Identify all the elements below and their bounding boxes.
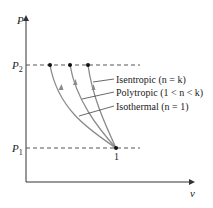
p2-label: P2 <box>11 59 23 74</box>
isentropic-leader <box>93 79 114 82</box>
isothermal-leader <box>79 106 114 116</box>
pv-diagram: P v P2 P1 1 Isentropic (n = k) Polytropi… <box>0 0 213 208</box>
polytropic-end-dot <box>68 63 72 67</box>
isothermal-label: Isothermal (n = 1) <box>116 101 189 113</box>
p1-label: P1 <box>11 142 23 157</box>
polytropic-label: Polytropic (1 < n < k) <box>116 87 203 99</box>
isentropic-label: Isentropic (n = k) <box>116 74 186 86</box>
isothermal-end-dot <box>48 63 52 67</box>
isentropic-end-dot <box>86 63 90 67</box>
x-axis-label: v <box>190 187 195 199</box>
state-1-dot <box>114 146 118 150</box>
polytropic-curve <box>70 65 116 148</box>
y-axis-label: P <box>16 14 24 26</box>
isothermal-arrow-icon <box>59 84 64 90</box>
polytropic-leader <box>82 92 114 99</box>
state-1-label: 1 <box>114 151 119 162</box>
